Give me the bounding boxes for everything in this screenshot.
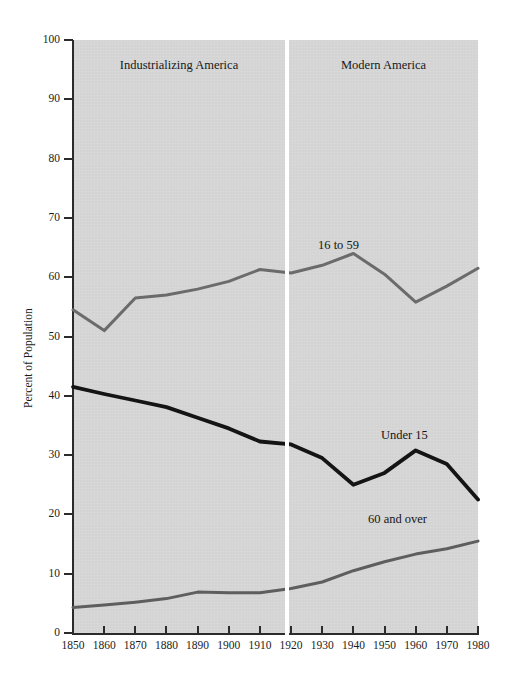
series-lines [0,0,513,680]
era-divider [285,40,289,633]
series-annotation-60-and-over: 60 and over [368,512,427,527]
series-line-under-15 [73,387,478,500]
series-annotation-16-to-59: 16 to 59 [318,238,359,253]
series-line-16-to-59 [73,254,478,331]
series-annotation-under-15: Under 15 [381,428,428,443]
population-age-composition-chart: 0102030405060708090100 18501860187018801… [0,0,513,680]
series-line-60-and-over [73,541,478,607]
